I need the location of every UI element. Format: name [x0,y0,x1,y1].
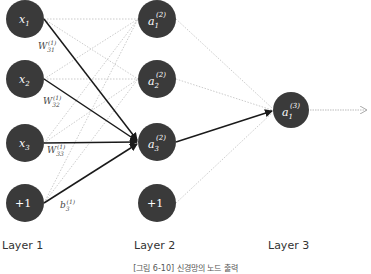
layer2-nodes: a1(2) a2(2) a3(2) +1 [138,0,176,222]
svg-text:b3(1): b3(1) [60,198,76,212]
svg-text:+1: +1 [147,197,163,210]
network-diagram: W31(1) W32(1) W33(1) b3(1) x1 x2 x3 +1 a… [0,0,371,274]
layer3-nodes: a1(3) [273,92,309,128]
dotted-edges-layer2 [176,19,272,203]
node-a1-3 [273,92,309,128]
layer1-nodes: x1 x2 x3 +1 [6,0,44,222]
layer2-label: Layer 2 [134,239,175,252]
node-a3-2 [138,123,176,161]
node-a2-2 [138,60,176,98]
highlighted-edges [44,19,272,203]
node-a1-2 [138,0,176,38]
svg-text:W31(1): W31(1) [38,39,57,53]
figure-caption: [그림 6-10] 신경망의 노드 출력 [0,262,371,273]
svg-text:W33(1): W33(1) [47,143,66,157]
svg-text:W32(1): W32(1) [43,94,62,108]
svg-text:+1: +1 [15,197,31,210]
layer3-label: Layer 3 [268,239,309,252]
layer1-label: Layer 1 [2,239,43,252]
